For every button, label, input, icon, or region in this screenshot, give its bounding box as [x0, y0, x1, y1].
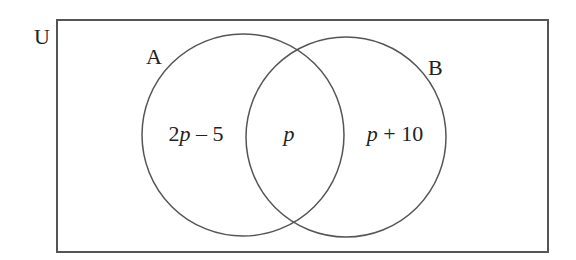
rest: – 5 [191, 121, 224, 146]
rest: + 10 [378, 121, 423, 146]
universe-label: U [34, 24, 50, 49]
venn-diagram: U A B 2p – 5 p p + 10 [0, 0, 576, 260]
coef: 2 [169, 121, 180, 146]
region-a-only-label: 2p – 5 [169, 121, 224, 146]
var: p [178, 121, 191, 146]
var: p [282, 121, 295, 146]
set-a-label: A [146, 44, 162, 69]
set-b-label: B [428, 55, 443, 80]
region-intersection-label: p [282, 121, 295, 146]
region-b-only-label: p + 10 [365, 121, 423, 146]
var: p [365, 121, 378, 146]
